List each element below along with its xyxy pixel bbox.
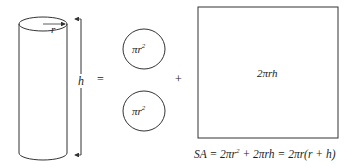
cylinder: r: [19, 17, 67, 160]
equals-sign: =: [97, 72, 104, 86]
bottom-circle-label: πr2: [132, 104, 146, 117]
top-circle: πr2: [123, 29, 165, 69]
rectangle-label: 2πrh: [257, 67, 278, 79]
surface-area-formula: SA = 2πr2 + 2πrh = 2πr(r + h): [194, 147, 336, 161]
top-circle-label: πr2: [132, 42, 146, 55]
surface-area-diagram: r h = πr2 πr2 + 2πrh SA = 2πr2 + 2πrh = …: [0, 0, 352, 165]
radius-label: r: [51, 23, 56, 35]
height-dimension: h: [75, 19, 86, 155]
lateral-rectangle: 2πrh: [198, 7, 338, 138]
height-label: h: [78, 74, 84, 88]
bottom-circle: πr2: [123, 91, 165, 131]
plus-sign: +: [175, 72, 182, 86]
cylinder-bottom-arc: [19, 153, 67, 160]
